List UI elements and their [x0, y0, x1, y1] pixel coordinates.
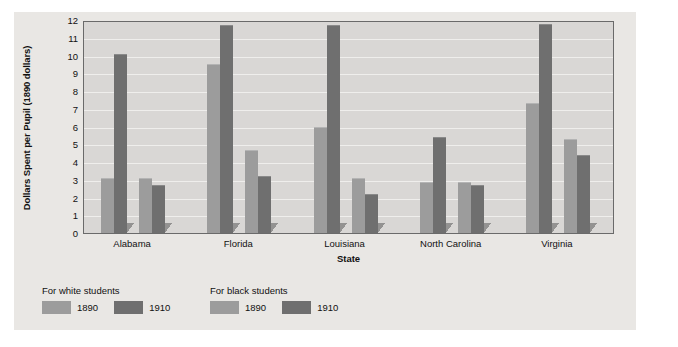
bar-body [245, 150, 258, 233]
bar-body [207, 64, 220, 233]
bar-shadow [378, 223, 385, 233]
bar-body [139, 178, 152, 233]
x-axis-tick-label: Alabama [113, 238, 151, 249]
legend-items: 18901910 [210, 301, 354, 314]
y-axis-tick-label: 1 [73, 212, 78, 222]
bar-shadow [590, 223, 597, 233]
legend-swatch [210, 301, 239, 314]
x-axis-tick-label: Louisiana [324, 238, 365, 249]
y-axis-ticks: 0123456789101112 [61, 21, 78, 235]
bar-shadow [446, 223, 453, 233]
bar [420, 182, 433, 233]
chart-legend: For white students18901910For black stud… [42, 285, 602, 323]
bar-body [433, 137, 446, 233]
bar-top-highlight [365, 194, 378, 195]
bar-body [539, 24, 552, 233]
y-axis-tick-label: 4 [73, 158, 78, 168]
bar [564, 139, 577, 233]
bar-shadow [340, 223, 347, 233]
legend-item: 1890 [210, 301, 266, 314]
legend-swatch [42, 301, 71, 314]
bar [258, 176, 271, 233]
bar-body [458, 182, 471, 233]
x-axis-label: State [83, 253, 614, 264]
bar [114, 54, 127, 233]
plot-area [83, 21, 614, 234]
bar [327, 25, 340, 233]
bar-top-highlight [577, 155, 590, 156]
legend-label: 1910 [317, 302, 338, 313]
bar-top-highlight [314, 127, 327, 128]
legend-group: For black students18901910 [210, 285, 354, 314]
bar-top-highlight [327, 25, 340, 26]
bar [314, 127, 327, 234]
bar-shadow [552, 223, 559, 233]
bar [139, 178, 152, 233]
bar [433, 137, 446, 233]
bar-top-highlight [526, 103, 539, 104]
bar-top-highlight [114, 54, 127, 55]
legend-group-title: For white students [42, 285, 186, 296]
legend-group-title: For black students [210, 285, 354, 296]
bar-top-highlight [139, 178, 152, 179]
y-axis-tick-label: 10 [67, 52, 78, 62]
gridline [84, 74, 613, 75]
bar-top-highlight [420, 182, 433, 183]
legend-items: 18901910 [42, 301, 186, 314]
bar-body [258, 176, 271, 233]
bar-top-highlight [207, 64, 220, 65]
y-axis-tick-label: 2 [73, 194, 78, 204]
bar-shadow [271, 223, 278, 233]
bar [352, 178, 365, 233]
gridline [84, 92, 613, 93]
x-axis-tick-label: Florida [224, 238, 253, 249]
legend-group: For white students18901910 [42, 285, 186, 314]
bar-shadow [165, 223, 172, 233]
bar [152, 185, 165, 233]
bar-shadow [233, 223, 240, 233]
bar-top-highlight [258, 176, 271, 177]
bar [245, 150, 258, 233]
bar-body [577, 155, 590, 233]
bar [220, 25, 233, 233]
y-axis-tick-label: 0 [73, 229, 78, 239]
bar-top-highlight [245, 150, 258, 151]
bar-shadow [484, 223, 491, 233]
gridline [84, 57, 613, 58]
bar [365, 194, 378, 233]
legend-item: 1910 [114, 301, 170, 314]
legend-label: 1910 [149, 302, 170, 313]
legend-label: 1890 [77, 302, 98, 313]
y-axis-label: Dollars Spent per Pupil (1890 dollars) [21, 21, 35, 235]
bar-body [365, 194, 378, 233]
bar-shadow [127, 223, 134, 233]
bar-top-highlight [220, 25, 233, 26]
legend-swatch [114, 301, 143, 314]
bar-top-highlight [101, 178, 114, 179]
bar-body [101, 178, 114, 233]
bar [526, 103, 539, 233]
bar-body [114, 54, 127, 233]
bar-top-highlight [564, 139, 577, 140]
bar-top-highlight [471, 185, 484, 186]
bar-body [327, 25, 340, 233]
bar-body [420, 182, 433, 233]
y-axis-tick-label: 3 [73, 176, 78, 186]
legend-item: 1910 [282, 301, 338, 314]
bar [577, 155, 590, 233]
y-axis-tick-label: 8 [73, 87, 78, 97]
y-axis-tick-label: 6 [73, 123, 78, 133]
legend-swatch [282, 301, 311, 314]
y-axis-tick-label: 11 [68, 34, 78, 44]
gridline [84, 39, 613, 40]
bar [539, 24, 552, 233]
bar [101, 178, 114, 233]
bar-body [564, 139, 577, 233]
y-axis-tick-label: 7 [73, 105, 78, 115]
legend-item: 1890 [42, 301, 98, 314]
bar-body [152, 185, 165, 233]
y-axis-tick-label: 9 [73, 70, 78, 80]
x-axis-tick-label: North Carolina [420, 238, 481, 249]
x-axis-tick-label: Virginia [541, 238, 573, 249]
legend-label: 1890 [245, 302, 266, 313]
